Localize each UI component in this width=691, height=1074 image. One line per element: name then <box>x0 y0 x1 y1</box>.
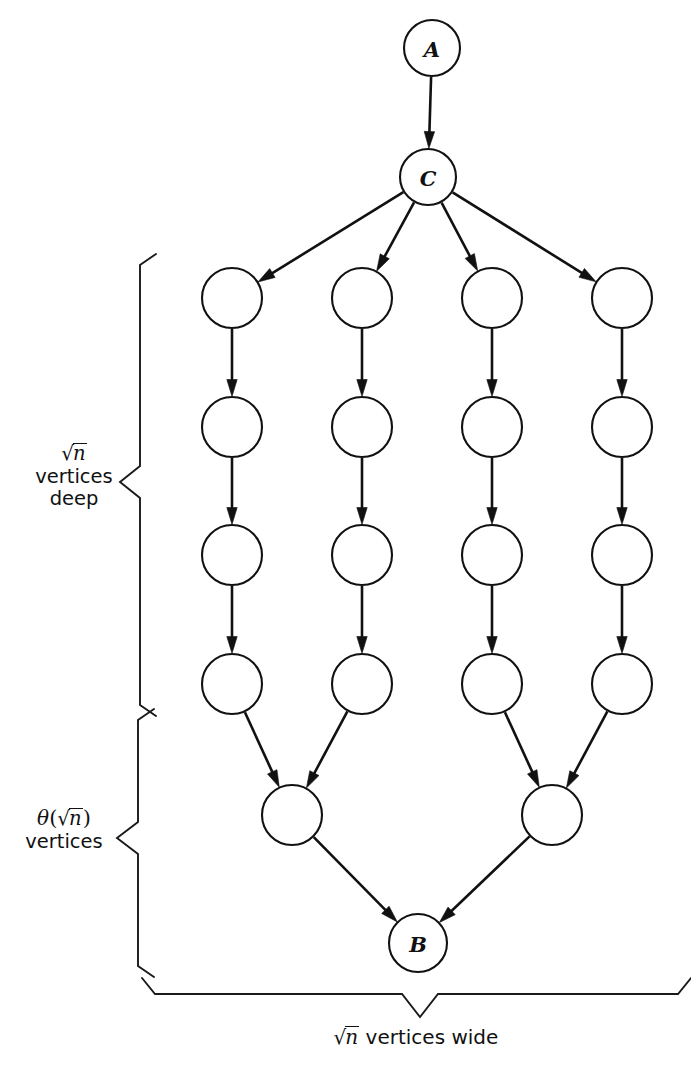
arrow-head-icon <box>424 131 434 148</box>
node-C[interactable]: C <box>400 149 456 205</box>
arrow-head-icon <box>258 269 275 282</box>
graph-svg: ACB <box>0 0 691 1074</box>
arrow-head-icon <box>617 637 627 654</box>
depth-label-line2: vertices <box>35 465 113 488</box>
radicand: n <box>69 808 83 829</box>
close-paren: ) <box>83 806 91 830</box>
edge-n32-to-n33 <box>487 458 497 525</box>
node-circle[interactable] <box>592 654 652 714</box>
arrow-head-icon <box>465 254 478 271</box>
node-n12[interactable] <box>202 397 262 457</box>
node-n24[interactable] <box>332 654 392 714</box>
node-circle[interactable] <box>592 268 652 328</box>
arrow-head-icon <box>227 637 237 654</box>
arrow-head-icon <box>617 380 627 397</box>
node-circle[interactable] <box>202 268 262 328</box>
edge-n13-to-n14 <box>227 586 237 654</box>
node-circle[interactable] <box>332 654 392 714</box>
radical-sqrt-n-merge: √n <box>57 807 82 830</box>
edge-n42-to-n43 <box>617 458 627 525</box>
node-circle[interactable] <box>462 654 522 714</box>
node-circle[interactable] <box>592 397 652 457</box>
node-n32[interactable] <box>462 397 522 457</box>
node-n21[interactable] <box>332 268 392 328</box>
node-n13[interactable] <box>202 525 262 585</box>
edge-A-to-C <box>424 77 434 149</box>
nodes-layer: ACB <box>202 20 652 972</box>
arrow-head-icon <box>487 508 497 525</box>
node-circle[interactable] <box>462 268 522 328</box>
node-n31[interactable] <box>462 268 522 328</box>
node-n33[interactable] <box>462 525 522 585</box>
merge-label-line2: vertices <box>25 830 103 853</box>
braces-layer <box>117 254 691 1017</box>
arrow-head-icon <box>617 508 627 525</box>
edge-n44-to-m2 <box>566 711 607 788</box>
edge-m1-to-B <box>314 837 398 922</box>
node-circle[interactable] <box>332 268 392 328</box>
arrow-head-icon <box>306 771 319 788</box>
edge-C-to-n41 <box>453 192 597 282</box>
node-n11[interactable] <box>202 268 262 328</box>
edge-n22-to-n23 <box>357 458 367 525</box>
radical-sqrt-n-depth: √n <box>61 442 86 465</box>
node-n23[interactable] <box>332 525 392 585</box>
label-sqrt-n-vertices-wide: √n vertices wide <box>246 1026 586 1049</box>
edge-C-to-n21 <box>377 202 415 271</box>
edge-n21-to-n22 <box>357 329 367 397</box>
brace-merge <box>117 709 154 977</box>
edge-n23-to-n24 <box>357 586 367 654</box>
arrow-head-icon <box>357 508 367 525</box>
arrow-head-icon <box>566 771 579 788</box>
node-m1[interactable] <box>262 785 322 845</box>
node-n41[interactable] <box>592 268 652 328</box>
node-n34[interactable] <box>462 654 522 714</box>
node-circle[interactable] <box>202 654 262 714</box>
theta-symbol: θ <box>37 806 49 830</box>
arrow-head-icon <box>357 637 367 654</box>
node-n42[interactable] <box>592 397 652 457</box>
radicand: n <box>73 443 87 464</box>
node-n14[interactable] <box>202 654 262 714</box>
node-circle[interactable] <box>462 525 522 585</box>
node-n43[interactable] <box>592 525 652 585</box>
brace-width <box>142 978 691 1017</box>
edge-n43-to-n44 <box>617 586 627 654</box>
arrow-head-icon <box>377 254 390 271</box>
node-circle[interactable] <box>332 397 392 457</box>
node-label: C <box>420 166 437 191</box>
node-circle[interactable] <box>592 525 652 585</box>
node-n22[interactable] <box>332 397 392 457</box>
node-label: A <box>422 37 440 62</box>
label-theta-sqrt-n-vertices: θ(√n) vertices <box>6 806 122 853</box>
node-circle[interactable] <box>462 397 522 457</box>
edge-C-to-n31 <box>442 203 478 271</box>
node-circle[interactable] <box>332 525 392 585</box>
arrow-head-icon <box>267 770 279 788</box>
arrow-head-icon <box>527 770 539 788</box>
edge-n33-to-n34 <box>487 586 497 654</box>
node-B[interactable]: B <box>389 914 447 972</box>
radicand: n <box>345 1026 359 1048</box>
radical-sqrt-n-width: √n <box>334 1025 360 1049</box>
edge-n12-to-n13 <box>227 458 237 525</box>
depth-label-line3: deep <box>50 487 99 510</box>
edge-n24-to-m1 <box>306 711 347 788</box>
edge-n41-to-n42 <box>617 329 627 397</box>
node-n44[interactable] <box>592 654 652 714</box>
arrow-head-icon <box>357 380 367 397</box>
node-label: B <box>408 932 427 957</box>
edge-n11-to-n12 <box>227 329 237 397</box>
node-circle[interactable] <box>262 785 322 845</box>
arrow-head-icon <box>487 380 497 397</box>
edge-m2-to-B <box>439 836 529 922</box>
node-circle[interactable] <box>202 397 262 457</box>
edge-n14-to-m1 <box>245 712 279 787</box>
arrow-head-icon <box>579 268 596 281</box>
edge-C-to-n11 <box>258 192 403 282</box>
node-A[interactable]: A <box>404 20 460 76</box>
node-circle[interactable] <box>202 525 262 585</box>
node-circle[interactable] <box>522 785 582 845</box>
node-m2[interactable] <box>522 785 582 845</box>
width-label-rest: vertices wide <box>366 1025 499 1049</box>
